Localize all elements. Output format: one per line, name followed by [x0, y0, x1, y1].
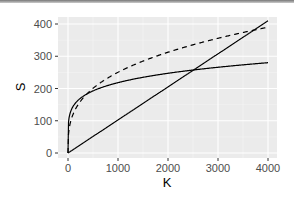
x-axis-label: K [163, 175, 172, 190]
x-tick-label: 4000 [256, 162, 280, 174]
y-tick-label: 100 [34, 115, 52, 127]
chart: 0100200300400 01000200030004000 K S [0, 0, 294, 202]
x-tick-label: 3000 [206, 162, 230, 174]
x-tick-label: 2000 [156, 162, 180, 174]
y-axis-ticks: 0100200300400 [34, 18, 58, 159]
x-tick-label: 0 [65, 162, 71, 174]
y-tick-label: 0 [46, 147, 52, 159]
y-tick-label: 400 [34, 18, 52, 30]
y-axis-label: S [13, 82, 28, 91]
y-tick-label: 300 [34, 50, 52, 62]
x-tick-label: 1000 [106, 162, 130, 174]
y-tick-label: 200 [34, 83, 52, 95]
x-axis-ticks: 01000200030004000 [65, 158, 280, 174]
